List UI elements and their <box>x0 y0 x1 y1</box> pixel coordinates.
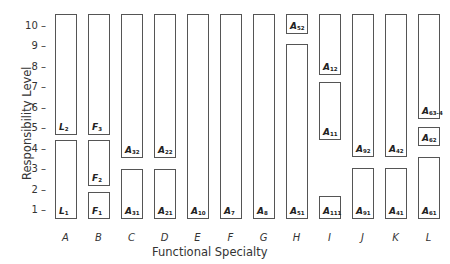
role-label: A22 <box>158 146 173 156</box>
role-box-a7: A7 <box>220 14 242 219</box>
role-label: A61 <box>422 207 437 217</box>
y-tick-4: 4 – <box>22 144 46 154</box>
role-label: L2 <box>59 123 69 133</box>
x-tick-a: A <box>55 233 76 243</box>
role-label: A63-4 <box>422 107 443 117</box>
y-tick-7: 7 – <box>22 82 46 92</box>
role-box-a32: A32 <box>121 14 143 158</box>
y-tick-10: 10 – <box>22 21 46 31</box>
role-label: A7 <box>224 207 235 217</box>
role-label: F3 <box>92 123 102 133</box>
role-box-a92: A92 <box>352 14 374 157</box>
role-box-a11: A11 <box>319 82 341 140</box>
y-tick-5: 5 – <box>22 123 46 133</box>
role-box-a51: A51 <box>286 44 308 219</box>
role-box-a63-4: A63-4 <box>418 14 440 119</box>
y-tick-6: 6 – <box>22 103 46 113</box>
role-label: A31 <box>125 207 140 217</box>
role-label: A62 <box>422 134 437 144</box>
role-label: A8 <box>257 207 268 217</box>
x-tick-k: K <box>385 233 406 243</box>
role-label: A91 <box>356 207 371 217</box>
role-box-f1: F1 <box>88 192 110 219</box>
role-label: F1 <box>92 207 102 217</box>
x-tick-h: H <box>286 233 307 243</box>
x-axis-label: Functional Specialty <box>152 245 268 259</box>
role-label: A92 <box>356 145 371 155</box>
x-tick-e: E <box>187 233 208 243</box>
role-box-l2: L2 <box>55 14 77 135</box>
role-box-f3: F3 <box>88 14 110 135</box>
role-box-a41: A41 <box>385 168 407 219</box>
role-box-a10: A10 <box>187 14 209 219</box>
role-label: A41 <box>389 207 404 217</box>
role-label: A111 <box>323 207 341 217</box>
role-box-a31: A31 <box>121 169 143 219</box>
role-label: A42 <box>389 145 404 155</box>
role-box-a42: A42 <box>385 14 407 157</box>
role-label: F2 <box>92 174 102 184</box>
role-box-l1: L1 <box>55 140 77 219</box>
x-tick-d: D <box>154 233 175 243</box>
role-box-a91: A91 <box>352 168 374 219</box>
role-label: A10 <box>191 207 206 217</box>
role-box-f2: F2 <box>88 140 110 186</box>
x-tick-l: L <box>418 233 439 243</box>
role-box-a12: A12 <box>319 14 341 75</box>
role-label: A11 <box>323 128 338 138</box>
role-label: A52 <box>290 22 305 32</box>
role-label: L1 <box>59 207 69 217</box>
role-box-a21: A21 <box>154 169 176 219</box>
responsibility-diagram: Responsibility Level 10 –9 –8 –7 –6 –5 –… <box>0 0 450 264</box>
x-tick-j: J <box>352 233 373 243</box>
y-tick-2: 2 – <box>22 185 46 195</box>
role-box-a22: A22 <box>154 14 176 158</box>
role-label: A51 <box>290 207 305 217</box>
role-label: A21 <box>158 207 173 217</box>
y-tick-3: 3 – <box>22 164 46 174</box>
x-tick-f: F <box>220 233 241 243</box>
role-label: A12 <box>323 63 338 73</box>
role-box-a61: A61 <box>418 157 440 219</box>
role-box-a8: A8 <box>253 14 275 219</box>
role-box-a52: A52 <box>286 14 308 34</box>
y-tick-1: 1 – <box>22 205 46 215</box>
y-tick-9: 9 – <box>22 41 46 51</box>
x-tick-c: C <box>121 233 142 243</box>
x-tick-b: B <box>88 233 109 243</box>
role-box-a111: A111 <box>319 196 341 219</box>
x-tick-g: G <box>253 233 274 243</box>
y-tick-8: 8 – <box>22 62 46 72</box>
role-label: A32 <box>125 146 140 156</box>
x-tick-i: I <box>319 233 340 243</box>
role-box-a62: A62 <box>418 127 440 146</box>
